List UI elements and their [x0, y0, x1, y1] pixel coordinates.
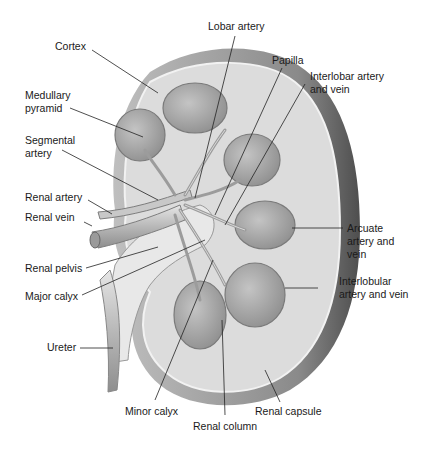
label-renal-capsule: Renal capsule: [255, 405, 322, 418]
label-segmental-artery: Segmental artery: [25, 134, 75, 160]
label-renal-column: Renal column: [193, 420, 257, 433]
label-major-calyx: Major calyx: [25, 290, 78, 303]
kidney-diagram: Cortex Medullary pyramid Segmental arter…: [0, 0, 427, 451]
label-renal-artery: Renal artery: [25, 191, 82, 204]
label-interlobar: Interlobar artery and vein: [310, 70, 384, 96]
label-minor-calyx: Minor calyx: [125, 405, 178, 418]
label-medullary-pyramid: Medullary pyramid: [25, 89, 71, 115]
label-cortex: Cortex: [55, 40, 86, 53]
label-lobar-artery: Lobar artery: [208, 20, 265, 33]
label-renal-vein: Renal vein: [25, 211, 75, 224]
label-papilla: Papilla: [272, 54, 304, 67]
label-ureter: Ureter: [47, 341, 76, 354]
label-arcuate: Arcuate artery and vein: [347, 222, 394, 261]
label-renal-pelvis: Renal pelvis: [25, 262, 82, 275]
label-interlobular: Interlobular artery and vein: [339, 275, 408, 301]
